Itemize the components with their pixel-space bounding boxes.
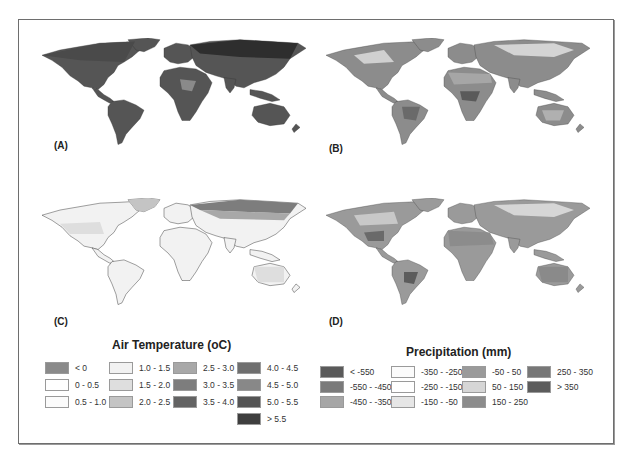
legend-label: 0 - 0.5 [75, 380, 99, 390]
legend-label: 50 - 150 [492, 382, 523, 392]
map-panel-c [40, 198, 310, 308]
temperature-legend-item: 2.0 - 2.5 [109, 395, 170, 409]
temperature-legend-item: 1.5 - 2.0 [109, 378, 170, 392]
precipitation-legend-item: -150 - -50 [391, 395, 458, 409]
precipitation-legend-item: < -550 [320, 365, 374, 379]
legend-label: -350 - -250 [421, 367, 463, 377]
temperature-legend-item: 1.0 - 1.5 [109, 361, 170, 375]
temperature-legend-item: 4.5 - 5.0 [237, 378, 298, 392]
legend-label: 4.0 - 4.5 [267, 363, 298, 373]
legend-swatch [237, 413, 261, 425]
legend-swatch [173, 396, 197, 408]
map-panel-a [40, 38, 310, 148]
legend-label: 2.0 - 2.5 [139, 397, 170, 407]
temperature-legend-item: 3.5 - 4.0 [173, 395, 234, 409]
temperature-legend-item: 0 - 0.5 [45, 378, 99, 392]
legend-swatch [462, 381, 486, 393]
legend-swatch [237, 379, 261, 391]
world-map-precipitation-baseline [324, 38, 594, 148]
precipitation-legend-item: 50 - 150 [462, 380, 523, 394]
legend-swatch [462, 396, 486, 408]
legend-label: -50 - 50 [492, 367, 521, 377]
temperature-legend-item: 5.0 - 5.5 [237, 395, 298, 409]
legend-swatch [109, 379, 133, 391]
legend-label: 0.5 - 1.0 [75, 397, 106, 407]
precipitation-legend-item: 250 - 350 [527, 365, 593, 379]
panel-label-c: (C) [54, 316, 68, 327]
legend-label: -150 - -50 [421, 397, 458, 407]
temperature-legend-item: 3.0 - 3.5 [173, 378, 234, 392]
legend-label: 150 - 250 [492, 397, 528, 407]
legend-label: > 5.5 [267, 414, 286, 424]
temperature-legend-title: Air Temperature (oC) [112, 338, 231, 352]
legend-swatch [109, 396, 133, 408]
legend-label: -250 - -150 [421, 382, 463, 392]
legend-swatch [391, 396, 415, 408]
legend-swatch [45, 379, 69, 391]
legend-label: 5.0 - 5.5 [267, 397, 298, 407]
legend-swatch [320, 366, 344, 378]
legend-swatch [462, 366, 486, 378]
precipitation-legend-item: -350 - -250 [391, 365, 463, 379]
precipitation-legend-item: -550 - -450 [320, 380, 392, 394]
precipitation-legend-item: -450 - -350 [320, 395, 392, 409]
legend-swatch [109, 362, 133, 374]
map-panel-d [324, 198, 594, 308]
legend-swatch [173, 379, 197, 391]
panel-label-d: (D) [329, 316, 343, 327]
legend-label: > 350 [557, 382, 579, 392]
legend-label: -550 - -450 [350, 382, 392, 392]
legend-swatch [320, 381, 344, 393]
temperature-legend-item: > 5.5 [237, 412, 286, 426]
legend-swatch [320, 396, 344, 408]
legend-swatch [527, 381, 551, 393]
legend-label: 250 - 350 [557, 367, 593, 377]
precipitation-legend-item: 150 - 250 [462, 395, 528, 409]
legend-label: 4.5 - 5.0 [267, 380, 298, 390]
legend-swatch [237, 396, 261, 408]
legend-label: < 0 [75, 363, 87, 373]
legend-swatch [237, 362, 261, 374]
legend-swatch [527, 366, 551, 378]
legend-swatch [391, 366, 415, 378]
precipitation-legend-item: -50 - 50 [462, 365, 521, 379]
map-panel-b [324, 38, 594, 148]
legend-label: 1.0 - 1.5 [139, 363, 170, 373]
precipitation-legend-item: -250 - -150 [391, 380, 463, 394]
world-map-temperature-baseline [40, 38, 310, 148]
temperature-legend-item: 0.5 - 1.0 [45, 395, 106, 409]
legend-swatch [173, 362, 197, 374]
precipitation-legend-title: Precipitation (mm) [406, 345, 511, 359]
precipitation-legend-item: > 350 [527, 380, 579, 394]
legend-label: 2.5 - 3.0 [203, 363, 234, 373]
temperature-legend-item: 4.0 - 4.5 [237, 361, 298, 375]
panel-label-b: (B) [329, 143, 343, 154]
legend-label: 3.0 - 3.5 [203, 380, 234, 390]
legend-swatch [45, 362, 69, 374]
legend-label: < -550 [350, 367, 374, 377]
legend-label: -450 - -350 [350, 397, 392, 407]
temperature-legend-item: 2.5 - 3.0 [173, 361, 234, 375]
legend-label: 1.5 - 2.0 [139, 380, 170, 390]
legend-label: 3.5 - 4.0 [203, 397, 234, 407]
legend-swatch [45, 396, 69, 408]
panel-label-a: (A) [54, 140, 68, 151]
legend-swatch [391, 381, 415, 393]
world-map-temperature-change [40, 198, 310, 308]
world-map-precipitation-change [324, 198, 594, 308]
temperature-legend-item: < 0 [45, 361, 87, 375]
